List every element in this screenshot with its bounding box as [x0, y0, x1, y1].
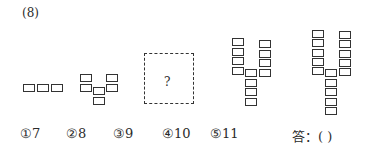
figure-cell [259, 69, 271, 77]
figure-cell [106, 74, 118, 82]
figure-cell [80, 74, 92, 82]
figure-cell [312, 30, 324, 38]
figure-cell [339, 40, 351, 48]
figure-cell [325, 79, 337, 87]
figure-cell [232, 67, 244, 75]
figure-cell [80, 84, 92, 92]
figure-cell [93, 97, 105, 105]
figure-cell [339, 50, 351, 58]
option-5[interactable]: ⑤11 [210, 126, 239, 141]
figure-cell [259, 40, 271, 48]
figure-cell [259, 59, 271, 67]
figure-cell [23, 84, 35, 92]
figure-cell [339, 31, 351, 39]
figure-cell [245, 79, 257, 87]
answer-prompt: 答：( ) [292, 126, 332, 145]
figure-cell [259, 50, 271, 58]
figure-cell [325, 88, 337, 96]
figure-cell [245, 88, 257, 96]
figure-cell [232, 57, 244, 65]
figure-cell [339, 59, 351, 67]
figure-cell [325, 69, 337, 77]
figure-cell [245, 69, 257, 77]
figure-cell [93, 87, 105, 95]
option-2[interactable]: ②8 [66, 126, 86, 141]
figure-cell [312, 67, 324, 75]
question-number: (8) [22, 6, 39, 20]
figure-cell [232, 38, 244, 46]
option-3[interactable]: ③9 [113, 126, 133, 141]
figure-cell [245, 98, 257, 106]
figure-cell [312, 49, 324, 57]
figure-cell [325, 98, 337, 106]
figure-cell [312, 58, 324, 66]
option-1[interactable]: ①7 [20, 126, 40, 141]
option-4[interactable]: ④10 [162, 126, 191, 141]
figure-cell [312, 39, 324, 47]
figure-cell [106, 84, 118, 92]
figure-cell [339, 68, 351, 76]
figure-cell [325, 107, 337, 115]
figure-cell [37, 84, 49, 92]
figure-cell [51, 84, 63, 92]
unknown-figure-mark: ? [164, 75, 170, 89]
figure-cell [232, 48, 244, 56]
